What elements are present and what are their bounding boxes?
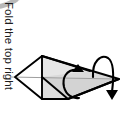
origami-fold-diagram bbox=[0, 0, 121, 132]
flip-over-loop-arrow-head bbox=[106, 90, 118, 100]
figure-panel: Fold the top right bbox=[0, 0, 121, 132]
